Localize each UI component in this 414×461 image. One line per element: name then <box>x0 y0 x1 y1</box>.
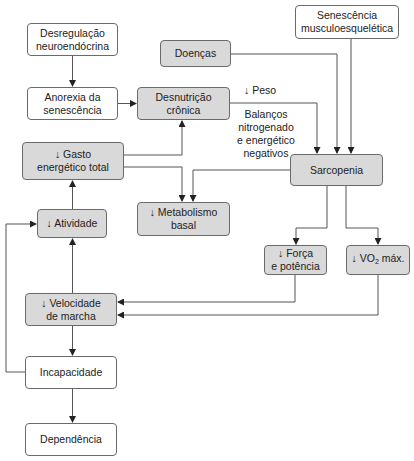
node-desnutricao-cronica: Desnutrição crônica <box>137 87 230 120</box>
edge-vo2-velocidade <box>118 275 378 315</box>
node-atividade: ↓ Atividade <box>37 209 107 238</box>
node-label: Dependência <box>40 433 102 446</box>
node-label: Incapacidade <box>40 366 102 379</box>
edge-gasto-metabolismo <box>124 167 182 201</box>
node-senescencia-musculoesqueletica: Senescência musculoesquelética <box>295 5 399 39</box>
edge-forca-velocidade <box>118 275 295 302</box>
node-label: ↓ Força e potência <box>271 247 319 273</box>
node-anorexia-senescencia: Anorexia da senescência <box>27 87 118 120</box>
node-label: Anorexia da senescência <box>43 91 101 117</box>
node-velocidade-marcha: ↓ Velocidade de marcha <box>25 293 117 326</box>
edge-label-balancos: Balanços nitrogenado e energético negati… <box>232 108 300 160</box>
node-sarcopenia: Sarcopenia <box>290 154 383 186</box>
node-forca-potencia: ↓ Força e potência <box>264 245 327 275</box>
node-label: Doenças <box>175 47 216 60</box>
node-label: ↓ Gasto energético total <box>37 148 109 174</box>
edge-label-peso: ↓ Peso <box>244 84 284 97</box>
node-label: Senescência musculoesquelética <box>301 9 393 35</box>
edge-sarcopenia-metabolismo <box>193 170 290 201</box>
node-gasto-energetico-total: ↓ Gasto energético total <box>22 142 124 180</box>
node-doencas: Doenças <box>160 40 231 67</box>
edge-sarcopenia-vo2 <box>346 186 378 244</box>
node-vo2-max: ↓ VO2 máx. <box>346 245 410 275</box>
node-incapacidade: Incapacidade <box>25 356 117 389</box>
node-label: ↓ Velocidade de marcha <box>41 297 101 323</box>
vo2-prefix: ↓ VO <box>352 252 375 264</box>
node-label: Desregulação neuroendócrina <box>36 27 109 53</box>
vo2-suffix: máx. <box>379 252 405 264</box>
node-dependencia: Dependência <box>25 423 117 456</box>
edge-sarcopenia-forca <box>296 186 327 244</box>
edge-gasto-desnutricao <box>124 121 182 155</box>
node-desregulacao-neuroendocrina: Desregulação neuroendócrina <box>27 23 118 56</box>
node-label: ↓ VO2 máx. <box>352 252 405 268</box>
node-metabolismo-basal: ↓ Metabolismo basal <box>137 202 230 236</box>
node-label: ↓ Metabolismo basal <box>150 206 218 232</box>
node-label: ↓ Atividade <box>47 217 98 230</box>
node-label: Desnutrição crônica <box>155 91 211 117</box>
node-label: Sarcopenia <box>310 164 363 177</box>
